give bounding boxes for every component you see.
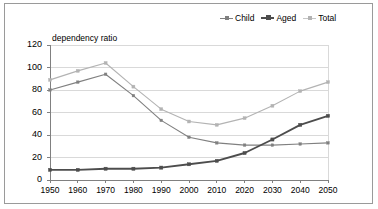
x-tick-label: 2050 — [313, 185, 343, 195]
x-tick-label: 2040 — [285, 185, 315, 195]
y-tick-label: 40 — [18, 129, 42, 139]
plot-area: 020406080100120 195019601970198019902000… — [5, 4, 374, 205]
plot-svg — [5, 4, 374, 205]
x-tick-label: 2010 — [202, 185, 232, 195]
x-tick-label: 2000 — [174, 185, 204, 195]
x-tick-label: 1950 — [35, 185, 65, 195]
y-tick-label: 100 — [18, 62, 42, 72]
x-tick-label: 2030 — [257, 185, 287, 195]
y-tick-label: 60 — [18, 107, 42, 117]
x-tick-label: 1960 — [63, 185, 93, 195]
y-tick-label: 20 — [18, 152, 42, 162]
y-tick-label: 80 — [18, 84, 42, 94]
x-tick-label: 1980 — [118, 185, 148, 195]
x-tick-label: 2020 — [230, 185, 260, 195]
chart-frame: Child Aged Total dependency ratio 020406… — [4, 3, 373, 204]
y-tick-label: 120 — [18, 39, 42, 49]
x-tick-label: 1970 — [91, 185, 121, 195]
x-tick-label: 1990 — [146, 185, 176, 195]
y-tick-label: 0 — [18, 174, 42, 184]
